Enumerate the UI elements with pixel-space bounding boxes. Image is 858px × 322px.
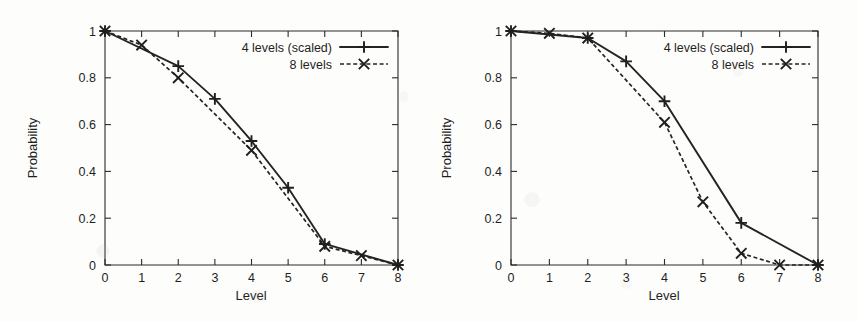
y-tick-label-right-3: 0.6 (485, 118, 502, 132)
series-line-right-0 (511, 31, 818, 265)
marker-plus-right-0-4 (735, 217, 747, 229)
x-tick-label-right-7: 7 (776, 271, 783, 285)
x-tick-label-left-8: 8 (395, 271, 402, 285)
y-axis-title-left: Probability (25, 117, 40, 178)
y-tick-label-right-4: 0.8 (485, 71, 502, 85)
marker-cross-right-1-4 (698, 197, 708, 207)
plot-frame-left (105, 31, 398, 265)
series-line-right-1 (511, 31, 818, 265)
x-tick-label-right-0: 0 (508, 271, 515, 285)
x-axis-ticks-left (105, 31, 398, 265)
x-tick-label-right-2: 2 (584, 271, 591, 285)
x-tick-label-left-4: 4 (248, 271, 255, 285)
y-tick-label-left-0: 0 (89, 259, 96, 273)
series-markers-left-0 (99, 25, 404, 271)
legend-label-left-0: 4 levels (scaled) (242, 41, 332, 55)
line-chart-left: 00.20.40.60.81 012345678 4 levels (scale… (0, 0, 429, 322)
x-axis-title-right: Level (648, 288, 679, 303)
x-tick-labels-left: 012345678 (102, 271, 402, 285)
x-tick-label-left-0: 0 (102, 271, 109, 285)
x-tick-label-right-8: 8 (815, 271, 822, 285)
series-markers-right-1 (506, 26, 823, 270)
series-markers-left-1 (100, 26, 403, 270)
legend-marker-plus-right (780, 41, 792, 53)
x-tick-label-right-5: 5 (699, 271, 706, 285)
y-tick-labels-left: 00.20.40.60.81 (79, 25, 96, 273)
plot-frame-right (511, 31, 818, 265)
figure-container: 00.20.40.60.81 012345678 4 levels (scale… (0, 0, 858, 322)
legend-left: 4 levels (scaled)8 levels (242, 41, 388, 72)
legend-label-left-1: 8 levels (290, 58, 332, 72)
x-axis-ticks-right (511, 31, 818, 265)
y-tick-label-left-3: 0.6 (79, 118, 96, 132)
line-chart-right: 00.20.40.60.81 012345678 4 levels (scale… (429, 0, 858, 322)
x-tick-labels-right: 012345678 (508, 271, 822, 285)
x-tick-label-right-4: 4 (661, 271, 668, 285)
y-axis-ticks-left (105, 31, 398, 265)
x-tick-label-right-3: 3 (623, 271, 630, 285)
series-group-left (99, 25, 404, 271)
series-markers-right-0 (505, 25, 824, 271)
series-line-left-0 (105, 31, 398, 265)
x-tick-label-right-6: 6 (738, 271, 745, 285)
x-tick-label-left-5: 5 (285, 271, 292, 285)
chart-panel-left: 00.20.40.60.81 012345678 4 levels (scale… (0, 0, 429, 322)
y-tick-label-right-1: 0.2 (485, 212, 502, 226)
legend-label-right-1: 8 levels (712, 58, 754, 72)
y-axis-title-right: Probability (439, 117, 454, 178)
chart-panel-right: 00.20.40.60.81 012345678 4 levels (scale… (429, 0, 858, 322)
legend-right: 4 levels (scaled)8 levels (664, 41, 810, 72)
x-tick-label-left-3: 3 (211, 271, 218, 285)
y-tick-labels-right: 00.20.40.60.81 (485, 25, 502, 273)
marker-cross-right-1-3 (659, 117, 669, 127)
y-tick-label-right-5: 1 (495, 25, 502, 39)
y-tick-label-right-0: 0 (495, 259, 502, 273)
y-tick-label-left-1: 0.2 (79, 212, 96, 226)
legend-label-right-0: 4 levels (scaled) (664, 41, 754, 55)
y-tick-label-left-4: 0.8 (79, 71, 96, 85)
series-line-left-1 (105, 31, 398, 265)
y-tick-label-left-2: 0.4 (79, 165, 96, 179)
x-tick-label-right-1: 1 (546, 271, 553, 285)
x-tick-label-left-2: 2 (175, 271, 182, 285)
marker-cross-right-1-5 (736, 248, 746, 258)
y-tick-label-left-5: 1 (89, 25, 96, 39)
x-tick-label-left-1: 1 (138, 271, 145, 285)
legend-marker-plus-left (358, 41, 370, 53)
series-group-right (505, 25, 824, 271)
y-axis-ticks-right (511, 31, 818, 265)
x-tick-label-left-7: 7 (358, 271, 365, 285)
x-tick-label-left-6: 6 (321, 271, 328, 285)
y-tick-label-right-2: 0.4 (485, 165, 502, 179)
marker-cross-left-1-2 (173, 73, 183, 83)
x-axis-title-left: Level (235, 288, 266, 303)
